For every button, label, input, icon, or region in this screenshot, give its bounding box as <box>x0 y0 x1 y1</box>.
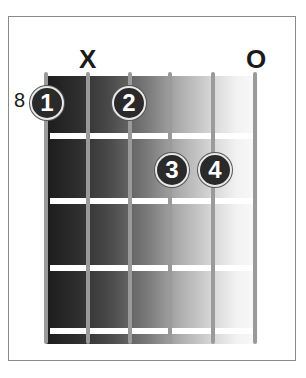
fret-line-2 <box>50 198 255 204</box>
fret-line-1 <box>50 133 255 139</box>
fretboard <box>46 76 258 344</box>
finger-2-dot: 2 <box>112 86 146 120</box>
finger-4-dot: 4 <box>198 153 232 187</box>
fret-line-3 <box>50 265 255 271</box>
muted-string-marker: X <box>79 44 96 75</box>
fret-line-4 <box>50 328 255 334</box>
string-2 <box>86 72 90 344</box>
open-string-marker: O <box>246 44 266 75</box>
string-6 <box>253 72 257 344</box>
string-5 <box>211 72 215 344</box>
finger-3-dot: 3 <box>155 153 189 187</box>
starting-fret-number: 8 <box>14 89 25 112</box>
string-4 <box>168 72 172 344</box>
finger-1-dot: 1 <box>30 86 64 120</box>
